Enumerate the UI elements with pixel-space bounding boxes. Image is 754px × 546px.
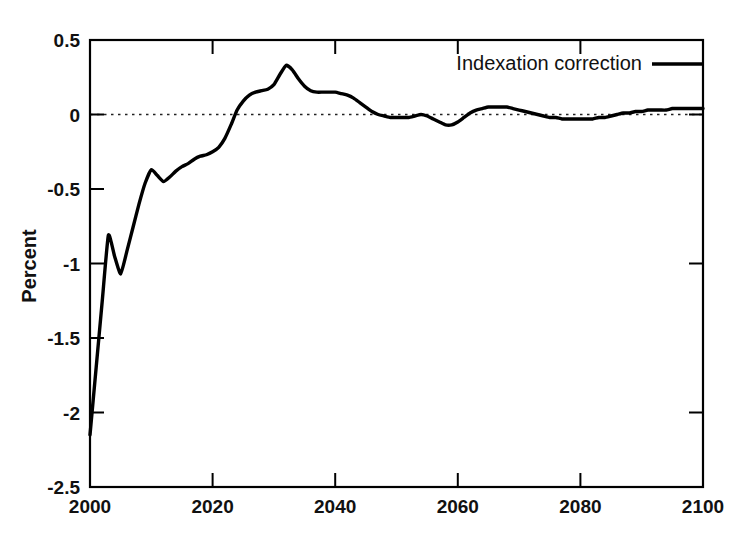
legend-label-indexation-correction: Indexation correction: [456, 52, 642, 74]
x-tick-label: 2060: [437, 496, 479, 517]
y-axis-title: Percent: [18, 229, 40, 303]
x-tick-label: 2020: [191, 496, 233, 517]
y-tick-labels: 0.5 0 -0.5 -1 -1.5 -2 -2.5: [47, 30, 80, 498]
y-tick-label: -0.5: [47, 179, 80, 200]
data-series-indexation-correction: [90, 65, 703, 435]
chart-legend: Indexation correction: [456, 52, 703, 74]
y-tick-label: -1.5: [47, 328, 80, 349]
y-tick-label: -2: [63, 403, 80, 424]
x-tick-label: 2000: [69, 496, 111, 517]
x-tick-label: 2080: [559, 496, 601, 517]
x-tickmarks: [213, 40, 581, 487]
y-tick-label: 0.5: [54, 30, 81, 51]
chart-figure: 0.5 0 -0.5 -1 -1.5 -2 -2.5 2000 2020 204…: [0, 0, 754, 546]
x-tick-label: 2100: [682, 496, 724, 517]
y-tickmarks-right: [689, 115, 703, 413]
y-tick-label: -1: [63, 254, 80, 275]
x-tick-labels: 2000 2020 2040 2060 2080 2100: [69, 496, 724, 517]
plot-frame: [90, 40, 703, 487]
y-tick-label: -2.5: [47, 477, 80, 498]
x-tick-label: 2040: [314, 496, 356, 517]
line-chart: 0.5 0 -0.5 -1 -1.5 -2 -2.5 2000 2020 204…: [0, 0, 754, 546]
y-tick-label: 0: [69, 105, 80, 126]
